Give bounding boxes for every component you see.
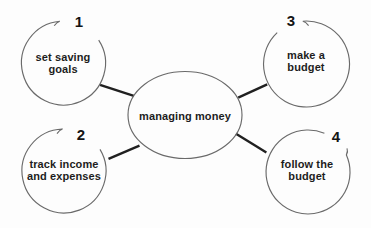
connector-line-node2 bbox=[109, 146, 140, 159]
diagram-canvas: 1 2 3 4 set saving goals track income an… bbox=[0, 0, 371, 228]
node4-label: follow the budget bbox=[281, 157, 333, 182]
connector-line-node4 bbox=[236, 134, 266, 153]
node1-label: set saving goals bbox=[36, 50, 91, 75]
node1-number: 1 bbox=[75, 13, 83, 30]
node3-label: make a budget bbox=[287, 49, 325, 74]
connector-line-node1 bbox=[100, 85, 134, 96]
center-node-label: managing money bbox=[139, 110, 231, 122]
node3-number: 3 bbox=[287, 12, 295, 29]
connector-line-node3 bbox=[238, 84, 267, 97]
node4-number: 4 bbox=[332, 128, 340, 145]
node2-number: 2 bbox=[77, 126, 85, 143]
node2-label: track income and expenses bbox=[27, 157, 101, 182]
